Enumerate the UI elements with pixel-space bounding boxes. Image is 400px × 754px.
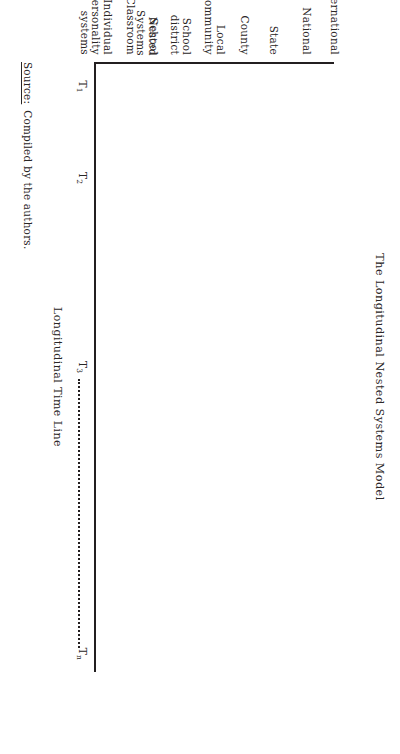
y-axis-label-individual-personality-systems: Individual personality systems [78,0,113,55]
y-axis-label-national: National [300,7,312,55]
x-axis-tick-tn: Tn [75,648,89,660]
x-axis-tick-t1: T1 [75,80,89,92]
y-axis-label-local-community: Local community [203,0,226,55]
x-axis-tick-t1-sub: 1 [75,88,84,93]
y-axis-title: Nested Systems [135,0,158,56]
source-label: Source: [22,62,34,104]
x-axis-tick-t2-sub: 2 [75,179,84,184]
figure-canvas: The Longitudinal Nested Systems Model In… [0,0,400,754]
x-axis-tick-t3-sub: 3 [75,368,84,373]
source-text: Compiled by the authors. [22,110,34,249]
x-axis-title: Longitudinal Time Line [51,0,64,754]
figure-title: The Longitudinal Nested Systems Model [373,0,386,754]
y-axis-label-school-district: School district [169,15,192,55]
x-axis-tick-tn-sub: n [75,655,84,660]
y-axis-label-state: State [267,26,279,55]
x-axis-tick-t3: T3 [75,361,89,373]
y-axis-label-international: International [328,0,340,55]
plot-area: International National State County Loca… [94,62,334,672]
source-note: Source:Compiled by the authors. [22,62,34,249]
y-axis-label-county: County [238,16,250,55]
x-axis-line [94,62,96,672]
y-axis-line [94,62,334,64]
x-axis-tick-t2: T2 [75,172,89,184]
timeline-dotted-extension [78,379,80,647]
